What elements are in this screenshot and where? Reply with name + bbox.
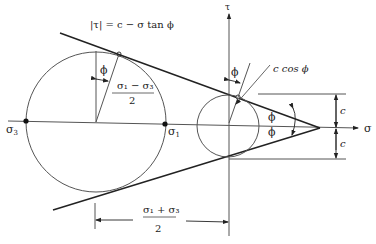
center-dimension-right-arrow [186,221,228,222]
phi-label-small: ϕ [231,66,239,79]
mohr-coulomb-diagram: σ τ ϕ σ₁ − σ₃ 2 σ3 σ1 |τ| = c − σ tan ϕ … [0,0,376,244]
c-lower-label: c [340,138,346,149]
sigma1-point [162,121,167,126]
c-cos-phi-leader [236,65,270,104]
c-upper-label: c [340,105,346,116]
envelope-equation: |τ| = c − σ tan ϕ [90,19,174,31]
radius-numerator: σ₁ − σ₃ [117,80,153,91]
sigma3-label: σ3 [6,123,18,137]
radius-denominator: 2 [129,95,135,106]
sigma1-label: σ1 [168,125,180,139]
tau-axis-label: τ [225,2,230,12]
phi-label-apex-upper: ϕ [268,111,276,124]
lower-failure-envelope [53,128,320,210]
phi-label-apex-lower: ϕ [268,126,276,139]
phi-arc-small [229,80,240,83]
sigma-axis-label: σ [364,122,372,135]
c-cos-phi-label: c cos ϕ [273,63,309,74]
phi-label-big: ϕ [100,64,108,77]
sigma3-point [23,118,28,123]
center-denominator: 2 [155,223,161,234]
phi-arc-apex [292,108,295,135]
center-numerator: σ₁ + σ₃ [143,204,179,215]
phi-arc-big [96,79,108,81]
